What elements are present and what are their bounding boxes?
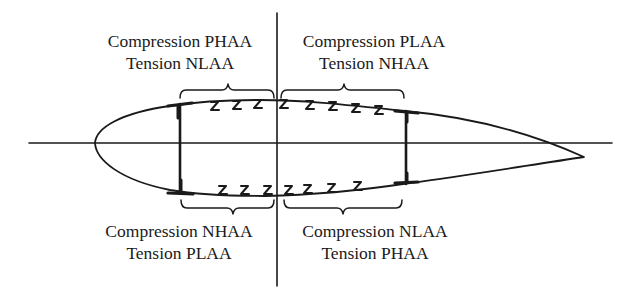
z-stringer — [285, 186, 293, 194]
label-compression: Compression PLAA — [282, 30, 466, 52]
brace-lower-right — [284, 200, 402, 214]
label-tension: Tension PLAA — [86, 242, 272, 264]
label-upper-left: Compression PHAA Tension NLAA — [88, 30, 272, 74]
airfoil-outline — [95, 100, 584, 196]
label-upper-right: Compression PLAA Tension NHAA — [282, 30, 466, 74]
label-lower-left: Compression NHAA Tension PLAA — [86, 220, 272, 264]
z-stringer — [328, 184, 336, 192]
z-stringer — [219, 186, 227, 194]
label-lower-right: Compression NLAA Tension PHAA — [282, 220, 468, 264]
label-tension: Tension PHAA — [282, 242, 468, 264]
rear-spar — [395, 111, 418, 184]
z-stringer — [211, 102, 219, 110]
label-compression: Compression NHAA — [86, 220, 272, 242]
z-stringer — [233, 101, 241, 109]
z-stringer — [264, 186, 272, 194]
front-spar — [168, 103, 193, 194]
brace-lower-left — [181, 200, 274, 214]
brace-upper-right — [281, 84, 404, 98]
label-tension: Tension NHAA — [282, 52, 466, 74]
z-stringer — [254, 100, 262, 108]
label-compression: Compression NLAA — [282, 220, 468, 242]
brace-upper-left — [180, 84, 274, 98]
label-compression: Compression PHAA — [88, 30, 272, 52]
z-stringer — [304, 185, 312, 193]
label-tension: Tension NLAA — [88, 52, 272, 74]
z-stringer — [241, 186, 249, 194]
upper-stringers — [211, 100, 383, 114]
